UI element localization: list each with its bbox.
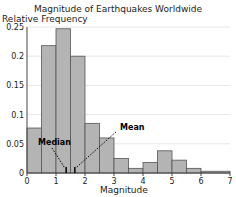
histogram-bar bbox=[158, 151, 173, 173]
histogram-bar bbox=[114, 158, 129, 173]
histogram-bar bbox=[27, 128, 42, 173]
x-tick-label: 1 bbox=[53, 177, 58, 186]
histogram-bar bbox=[143, 162, 158, 173]
x-tick-label: 0 bbox=[24, 177, 29, 186]
histogram-bar bbox=[42, 46, 57, 173]
histogram-bar bbox=[172, 160, 187, 173]
histogram: 00.050.10.150.20.2501234567MedianMean bbox=[0, 0, 236, 197]
histogram-bar bbox=[129, 168, 144, 173]
histogram-bar bbox=[187, 168, 202, 173]
histogram-bar bbox=[71, 56, 86, 173]
x-tick-label: 6 bbox=[198, 177, 203, 186]
y-tick-label: 0.25 bbox=[6, 23, 24, 32]
median-label: Median bbox=[38, 138, 71, 147]
y-tick-label: 0.1 bbox=[11, 111, 24, 120]
x-tick-label: 7 bbox=[227, 177, 232, 186]
x-tick-label: 2 bbox=[82, 177, 87, 186]
histogram-bar bbox=[100, 138, 115, 173]
x-tick-label: 5 bbox=[169, 177, 174, 186]
histogram-bar bbox=[56, 29, 71, 173]
y-tick-label: 0.05 bbox=[6, 140, 24, 149]
mean-label: Mean bbox=[120, 123, 145, 132]
x-tick-label: 3 bbox=[111, 177, 116, 186]
y-tick-label: 0.2 bbox=[11, 52, 24, 61]
y-tick-label: 0 bbox=[19, 169, 24, 178]
y-tick-label: 0.15 bbox=[6, 81, 24, 90]
x-tick-label: 4 bbox=[140, 177, 145, 186]
